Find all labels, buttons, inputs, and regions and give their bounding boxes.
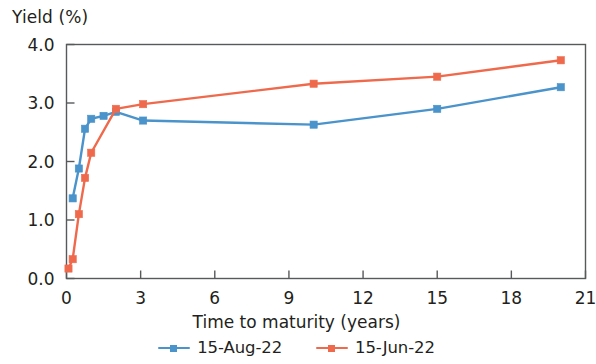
y-tick-label: 0.0	[27, 269, 54, 289]
data-point-marker	[75, 211, 82, 218]
data-point-marker	[557, 57, 564, 64]
data-point-marker	[81, 125, 88, 132]
x-tick-label: 6	[209, 288, 220, 308]
legend-label: 15-Jun-22	[355, 338, 435, 357]
y-tick-label: 4.0	[27, 35, 54, 55]
data-point-marker	[112, 105, 119, 112]
x-axis-title: Time to maturity (years)	[0, 312, 593, 332]
data-point-marker	[557, 84, 564, 91]
legend-marker	[170, 345, 177, 352]
data-point-marker	[69, 195, 76, 202]
data-point-marker	[88, 115, 95, 122]
y-tick-label: 1.0	[27, 210, 54, 230]
x-tick-label: 18	[501, 288, 523, 308]
chart-legend: 15-Aug-2215-Jun-22	[0, 338, 593, 357]
axis-frame	[67, 45, 586, 279]
y-tick-label: 2.0	[27, 152, 54, 172]
x-tick-label: 9	[284, 288, 295, 308]
legend-swatch-icon	[316, 342, 348, 354]
x-tick-label: 0	[61, 288, 72, 308]
series-layer	[65, 57, 565, 272]
x-tick-label: 15	[426, 288, 448, 308]
data-point-marker	[310, 80, 317, 87]
data-point-marker	[81, 174, 88, 181]
data-point-marker	[434, 73, 441, 80]
series-2	[65, 57, 565, 272]
legend-item[interactable]: 15-Aug-22	[158, 338, 282, 357]
legend-swatch-icon	[158, 342, 190, 354]
data-point-marker	[75, 165, 82, 172]
x-tick-label: 3	[135, 288, 146, 308]
data-point-marker	[65, 265, 72, 272]
series-line	[68, 60, 560, 268]
data-point-marker	[88, 149, 95, 156]
legend-marker	[328, 345, 335, 352]
data-point-marker	[100, 112, 107, 119]
data-point-marker	[69, 256, 76, 263]
x-tick-label: 12	[352, 288, 374, 308]
y-tick-label: 3.0	[27, 93, 54, 113]
legend-item[interactable]: 15-Jun-22	[316, 338, 435, 357]
plot-frame	[67, 45, 586, 279]
x-tick-label: 21	[575, 288, 596, 308]
data-point-marker	[140, 117, 147, 124]
data-point-marker	[310, 121, 317, 128]
legend-label: 15-Aug-22	[197, 338, 282, 357]
data-point-marker	[140, 101, 147, 108]
data-point-marker	[434, 105, 441, 112]
